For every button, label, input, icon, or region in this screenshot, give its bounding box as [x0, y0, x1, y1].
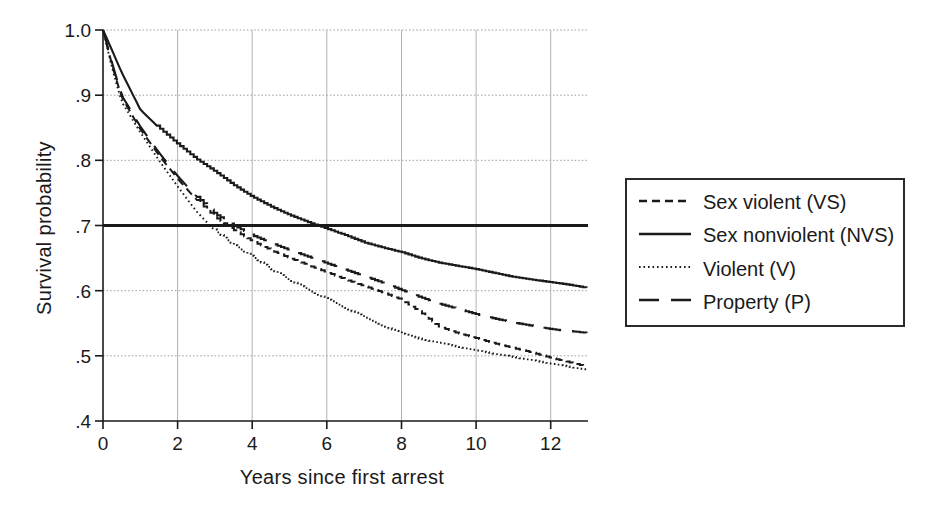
survival-figure: Survival probability Years since first a…: [0, 0, 929, 512]
x-tick-label-0: 0: [98, 434, 109, 453]
solid-line-sample-icon: [638, 226, 692, 246]
legend-label-sex-violent: Sex violent (VS): [703, 191, 846, 214]
y-tick-label-1.0: 1.0: [65, 21, 91, 40]
longdash-line-sample-icon: [638, 292, 692, 312]
legend-item-violent: Violent (V): [638, 258, 903, 281]
y-tick-label-.9: .9: [75, 86, 91, 105]
x-tick-label-12: 12: [540, 434, 561, 453]
curve-sex-violent-vs: [103, 30, 587, 367]
curve-property-p: [103, 30, 587, 333]
longdash-line-glyph: [638, 292, 692, 308]
y-tick-label-.6: .6: [75, 281, 91, 300]
legend-label-sex-nonviolent: Sex nonviolent (NVS): [703, 224, 894, 247]
dashed-line-glyph: [638, 193, 692, 209]
y-tick-label-.4: .4: [75, 412, 91, 431]
legend-box: Sex violent (VS) Sex nonviolent (NVS) Vi…: [625, 178, 905, 327]
x-tick-label-2: 2: [172, 434, 183, 453]
x-tick-label-10: 10: [466, 434, 487, 453]
y-tick-label-.8: .8: [75, 151, 91, 170]
x-tick-label-4: 4: [247, 434, 258, 453]
legend-item-sex-violent: Sex violent (VS): [638, 191, 903, 214]
solid-line-glyph: [638, 226, 692, 242]
dashed-line-sample-icon: [638, 193, 692, 213]
curve-violent-v: [103, 30, 587, 370]
x-tick-label-8: 8: [396, 434, 407, 453]
legend-label-violent: Violent (V): [703, 258, 796, 281]
y-tick-label-.7: .7: [75, 216, 91, 235]
legend-label-property: Property (P): [703, 291, 811, 314]
y-tick-label-.5: .5: [75, 346, 91, 365]
x-axis-title: Years since first arrest: [240, 466, 444, 489]
legend-item-sex-nonviolent: Sex nonviolent (NVS): [638, 224, 903, 247]
y-axis-title: Survival probability: [33, 141, 56, 315]
dotted-line-glyph: [638, 259, 692, 275]
dotted-line-sample-icon: [638, 259, 692, 279]
legend-item-property: Property (P): [638, 291, 903, 314]
x-tick-label-6: 6: [322, 434, 333, 453]
curve-sex-nonviolent-nvs: [103, 30, 587, 288]
